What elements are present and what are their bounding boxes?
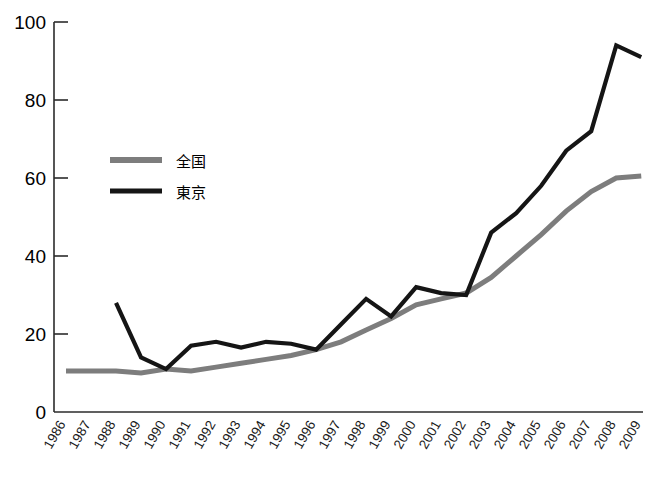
y-axis-tick-label: 60 <box>25 168 46 189</box>
legend-label-national: 全国 <box>176 153 206 171</box>
chart-canvas: 100806040200 198619871988198919901991199… <box>0 0 659 478</box>
legend-label-tokyo: 東京 <box>176 184 206 202</box>
line-chart-figure: 100806040200 198619871988198919901991199… <box>0 0 659 478</box>
y-axis-tick-label: 20 <box>25 324 46 345</box>
y-axis-tick-label: 0 <box>35 402 46 423</box>
chart-background <box>0 0 659 478</box>
y-axis-tick-label: 80 <box>25 90 46 111</box>
y-axis-tick-label: 100 <box>14 12 46 33</box>
y-axis-tick-label: 40 <box>25 246 46 267</box>
